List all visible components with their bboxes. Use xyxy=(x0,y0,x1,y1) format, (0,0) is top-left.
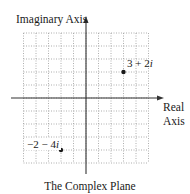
point-label-3-plus-2i: 3 + 2i xyxy=(127,57,153,69)
point-label-imaginary-unit: i xyxy=(56,138,59,150)
point-label-imaginary-unit: i xyxy=(150,57,153,69)
real-axis-label-line2: Axis xyxy=(163,115,185,128)
real-axis-label: Real Axis xyxy=(163,101,185,128)
point-label-minus2-minus-4i: −2 − 4i xyxy=(25,138,61,150)
point-marker xyxy=(121,70,125,74)
complex-plane-figure: Imaginary Axis Real Axis 3 + 2i −2 − 4i … xyxy=(0,0,190,194)
imaginary-axis-label: Imaginary Axis xyxy=(16,13,87,25)
complex-plane-svg xyxy=(0,0,190,194)
real-axis-label-line1: Real xyxy=(163,101,185,114)
figure-caption: The Complex Plane xyxy=(0,180,180,192)
point-label-real-part: 3 + 2 xyxy=(127,57,150,69)
point-label-real-part: −2 − 4 xyxy=(27,138,56,150)
real-axis-arrow-icon xyxy=(157,96,164,101)
